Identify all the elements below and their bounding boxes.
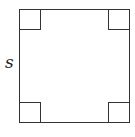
square-shape <box>19 9 130 123</box>
right-angle-marker-bottom-right <box>108 102 129 122</box>
right-angle-marker-top-right <box>108 10 129 30</box>
right-angle-marker-top-left <box>20 10 41 30</box>
side-length-label: s <box>5 54 14 71</box>
right-angle-marker-bottom-left <box>20 102 41 122</box>
